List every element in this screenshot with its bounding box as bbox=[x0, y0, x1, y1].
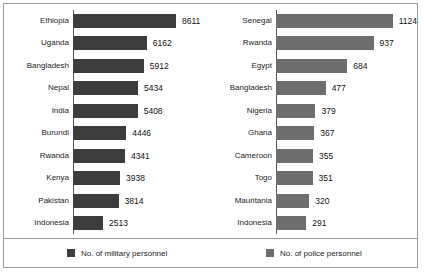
bar bbox=[276, 59, 347, 73]
bar-track: 355 bbox=[276, 148, 417, 164]
bar-row: Rwanda4341 bbox=[4, 148, 211, 164]
bar-category-label: Nigeria bbox=[211, 103, 276, 119]
bar bbox=[276, 216, 306, 230]
bar-value-label: 3938 bbox=[120, 170, 145, 186]
bar-row: Nigeria379 bbox=[211, 103, 417, 119]
bar-value-label: 4446 bbox=[126, 125, 151, 141]
police-bar-rows: Senegal1124Rwanda937Egypt684Bangladesh47… bbox=[211, 13, 417, 231]
bar-track: 2513 bbox=[73, 215, 211, 231]
bar bbox=[276, 81, 326, 95]
bar-category-label: Bangladesh bbox=[4, 58, 73, 74]
bar-row: Kenya3938 bbox=[4, 170, 211, 186]
bar-category-label: Uganda bbox=[4, 35, 73, 51]
legend-item-police: No. of police personnel bbox=[266, 249, 362, 258]
bar bbox=[276, 104, 315, 118]
bar-track: 351 bbox=[276, 170, 417, 186]
bar-track: 3814 bbox=[73, 193, 211, 209]
bar-row: Uganda6162 bbox=[4, 35, 211, 51]
legend-swatch-icon bbox=[67, 249, 75, 257]
bar-row: Burundi4446 bbox=[4, 125, 211, 141]
bar-track: 5408 bbox=[73, 103, 211, 119]
bar-category-label: India bbox=[4, 103, 73, 119]
bar-value-label: 5434 bbox=[138, 80, 163, 96]
bar bbox=[276, 149, 313, 163]
bar-value-label: 379 bbox=[315, 103, 335, 119]
bar-row: Togo351 bbox=[211, 170, 417, 186]
bar-row: Nepal5434 bbox=[4, 80, 211, 96]
bar-track: 684 bbox=[276, 58, 417, 74]
bar-value-label: 937 bbox=[374, 35, 394, 51]
bar-value-label: 684 bbox=[347, 58, 367, 74]
bar-track: 8611 bbox=[73, 13, 211, 29]
bar-value-label: 5912 bbox=[144, 58, 169, 74]
bar-track: 367 bbox=[276, 125, 417, 141]
bar-row: Bangladesh477 bbox=[211, 80, 417, 96]
bar-row: Indonesia2513 bbox=[4, 215, 211, 231]
bar-value-label: 291 bbox=[306, 215, 326, 231]
legend-item-label: No. of military personnel bbox=[81, 249, 167, 258]
bar-row: Rwanda937 bbox=[211, 35, 417, 51]
legend-swatch-icon bbox=[266, 249, 274, 257]
bar bbox=[73, 14, 176, 28]
bar bbox=[73, 59, 144, 73]
bar-row: India5408 bbox=[4, 103, 211, 119]
military-personnel-chart: Ethiopia8611Uganda6162Bangladesh5912Nepa… bbox=[4, 4, 211, 238]
bar-value-label: 1124 bbox=[393, 13, 417, 29]
bar-track: 320 bbox=[276, 193, 417, 209]
bar bbox=[73, 194, 119, 208]
bar-row: Mauritania320 bbox=[211, 193, 417, 209]
legend-item-label: No. of police personnel bbox=[280, 249, 362, 258]
bar-track: 291 bbox=[276, 215, 417, 231]
bar-category-label: Mauritania bbox=[211, 193, 276, 209]
bar-category-label: Senegal bbox=[211, 13, 276, 29]
bar-category-label: Bangladesh bbox=[211, 80, 276, 96]
bar-track: 937 bbox=[276, 35, 417, 51]
bar-category-label: Togo bbox=[211, 170, 276, 186]
bar-value-label: 5408 bbox=[138, 103, 163, 119]
plot-area: Ethiopia8611Uganda6162Bangladesh5912Nepa… bbox=[4, 4, 417, 238]
bar-value-label: 3814 bbox=[119, 193, 144, 209]
bar-category-label: Rwanda bbox=[4, 148, 73, 164]
bar-track: 5434 bbox=[73, 80, 211, 96]
bar-category-label: Cameroon bbox=[211, 148, 276, 164]
bar bbox=[276, 36, 374, 50]
bar-category-label: Nepal bbox=[4, 80, 73, 96]
bar-row: Egypt684 bbox=[211, 58, 417, 74]
bar-track: 1124 bbox=[276, 13, 417, 29]
bar-value-label: 351 bbox=[313, 170, 333, 186]
bar-category-label: Burundi bbox=[4, 125, 73, 141]
bar-track: 4341 bbox=[73, 148, 211, 164]
bar bbox=[73, 104, 138, 118]
chart-legend: No. of military personnel No. of police … bbox=[4, 239, 417, 267]
bar bbox=[276, 126, 314, 140]
bar-category-label: Ethiopia bbox=[4, 13, 73, 29]
bar-category-label: Rwanda bbox=[211, 35, 276, 51]
bar-row: Senegal1124 bbox=[211, 13, 417, 29]
bar-value-label: 4341 bbox=[125, 148, 150, 164]
bar-category-label: Indonesia bbox=[4, 215, 73, 231]
bar bbox=[73, 36, 147, 50]
bar-value-label: 6162 bbox=[147, 35, 172, 51]
bar-track: 3938 bbox=[73, 170, 211, 186]
bar-category-label: Kenya bbox=[4, 170, 73, 186]
bar-row: Ghana367 bbox=[211, 125, 417, 141]
bar-value-label: 2513 bbox=[103, 215, 128, 231]
bar-category-label: Egypt bbox=[211, 58, 276, 74]
legend-item-military: No. of military personnel bbox=[67, 249, 167, 258]
bar-row: Indonesia291 bbox=[211, 215, 417, 231]
bar bbox=[276, 14, 393, 28]
bar bbox=[73, 171, 120, 185]
police-personnel-chart: Senegal1124Rwanda937Egypt684Bangladesh47… bbox=[211, 4, 417, 238]
bar-row: Cameroon355 bbox=[211, 148, 417, 164]
bar-value-label: 320 bbox=[309, 193, 329, 209]
bar-value-label: 355 bbox=[313, 148, 333, 164]
bar bbox=[73, 81, 138, 95]
bar-value-label: 477 bbox=[326, 80, 346, 96]
bar bbox=[73, 149, 125, 163]
bar-row: Bangladesh5912 bbox=[4, 58, 211, 74]
bar-row: Pakistan3814 bbox=[4, 193, 211, 209]
bar-category-label: Pakistan bbox=[4, 193, 73, 209]
bar-category-label: Indonesia bbox=[211, 215, 276, 231]
military-bar-rows: Ethiopia8611Uganda6162Bangladesh5912Nepa… bbox=[4, 13, 211, 231]
bar bbox=[276, 171, 313, 185]
